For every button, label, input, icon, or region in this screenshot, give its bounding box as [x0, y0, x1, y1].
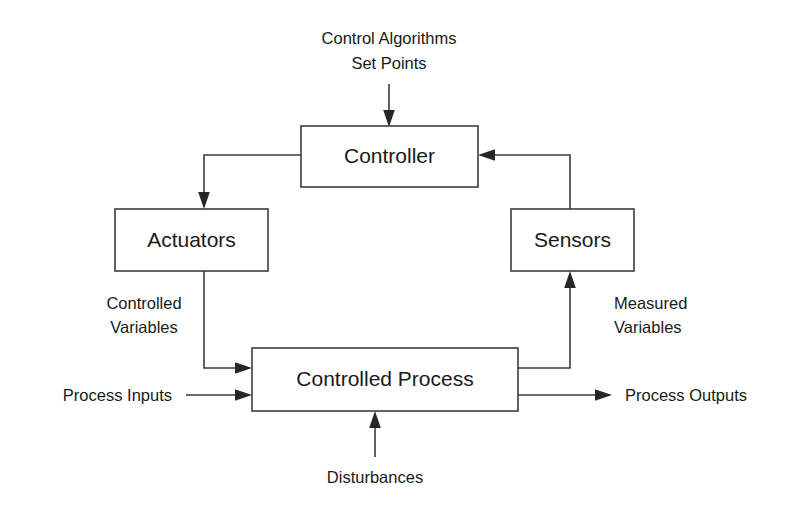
arrow-up-icon: [369, 411, 381, 428]
control-loop-diagram: Control Algorithms Set Points Controller…: [0, 0, 799, 509]
set-points-label-line2: Set Points: [351, 54, 426, 72]
process-inputs-label: Process Inputs: [63, 386, 172, 404]
arrow-right-icon: [235, 389, 252, 401]
measured-variables-label-line2: Variables: [614, 318, 682, 336]
disturbances-label: Disturbances: [327, 468, 423, 486]
measured-variables-label-line1: Measured: [614, 294, 687, 312]
controlled-variables-label-line2: Variables: [110, 318, 178, 336]
block-actuators-label: Actuators: [147, 228, 236, 251]
actuators-to-process-line: [204, 271, 241, 368]
controller-to-actuators-line: [204, 155, 301, 199]
arrow-up-icon: [564, 271, 576, 288]
arrow-right-icon: [235, 362, 252, 374]
block-controller-label: Controller: [344, 144, 435, 167]
block-sensors-label: Sensors: [534, 228, 611, 251]
block-controlled-process-label: Controlled Process: [296, 367, 473, 390]
controlled-variables-label-line1: Controlled: [106, 294, 181, 312]
sensors-to-controller-line: [489, 155, 570, 210]
control-algorithms-label-line1: Control Algorithms: [322, 29, 457, 47]
process-to-sensors-line: [518, 282, 570, 368]
arrow-right-icon: [595, 389, 612, 401]
arrow-down-icon: [383, 110, 395, 127]
arrow-down-icon: [198, 192, 210, 209]
arrow-left-icon: [478, 149, 495, 161]
process-outputs-label: Process Outputs: [625, 386, 747, 404]
diagram-canvas: Control Algorithms Set Points Controller…: [0, 0, 799, 509]
